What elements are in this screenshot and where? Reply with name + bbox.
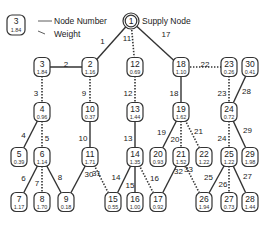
node-number: 25 xyxy=(224,149,234,159)
edge-label: 6 xyxy=(21,174,26,183)
node-weight: 1.22 xyxy=(224,159,235,165)
node-weight: 1.00 xyxy=(130,204,141,210)
node-number: 21 xyxy=(176,149,186,159)
node-number: 13 xyxy=(130,104,140,114)
edge-label: 31 xyxy=(92,169,101,178)
edge-label: 12 xyxy=(124,89,133,98)
node-number: 18 xyxy=(176,59,186,69)
edge-label: 20 xyxy=(171,135,180,144)
edge-label: 23 xyxy=(218,89,227,98)
node-number: 7 xyxy=(17,194,22,204)
node-number: 15 xyxy=(108,194,118,204)
node-number: 23 xyxy=(224,59,234,69)
node-number: 19 xyxy=(176,104,186,114)
legend-number-label: Node Number xyxy=(54,16,107,26)
node-22: 221.22 xyxy=(196,148,212,167)
node-weight: 0.39 xyxy=(14,159,25,165)
node-weight: 1.98 xyxy=(245,159,256,165)
node-number: 22 xyxy=(199,149,209,159)
node-weight: 0.26 xyxy=(224,69,235,75)
node-15: 150.55 xyxy=(105,193,121,212)
node-weight: 0.37 xyxy=(85,114,96,120)
edge-label: 7 xyxy=(35,179,40,188)
node-9: 90.18 xyxy=(58,193,74,212)
node-weight: 1.17 xyxy=(14,204,25,210)
node-number: 24 xyxy=(224,104,234,114)
node-number: 20 xyxy=(153,149,163,159)
node-number: 26 xyxy=(199,194,209,204)
edge-label: 10 xyxy=(79,134,88,143)
node-weight: 0.55 xyxy=(108,204,119,210)
legend-node-weight: 1.84 xyxy=(11,27,22,33)
node-weight: 0.69 xyxy=(130,69,141,75)
node-weight: 1.84 xyxy=(37,69,48,75)
edge-label: 21 xyxy=(194,127,203,136)
node-30: 300.41 xyxy=(242,58,258,77)
node-weight: 1.52 xyxy=(176,159,187,165)
node-weight: 1.14 xyxy=(37,159,48,165)
node-5: 50.39 xyxy=(11,148,27,167)
edge-label: 9 xyxy=(82,89,87,98)
node-13: 131.44 xyxy=(127,103,143,122)
node-11: 111.71 xyxy=(82,148,98,167)
node-number: 30 xyxy=(245,59,255,69)
edge-label: 13 xyxy=(124,134,133,143)
edge-label: 19 xyxy=(157,128,166,137)
node-20: 200.93 xyxy=(150,148,166,167)
node-3: 31.84 xyxy=(34,58,50,77)
node-weight: 1.22 xyxy=(199,159,210,165)
edge-label: 29 xyxy=(243,126,252,135)
node-2: 21.16 xyxy=(82,58,98,77)
edge-label: 28 xyxy=(242,87,251,96)
edge-label: 8 xyxy=(58,173,63,182)
node-number: 11 xyxy=(86,149,95,159)
node-24: 240.72 xyxy=(221,103,237,122)
node-number: 6 xyxy=(40,149,45,159)
node-number: 5 xyxy=(17,149,22,159)
node-21: 211.52 xyxy=(173,148,189,167)
node-number: 14 xyxy=(130,149,140,159)
node-weight: 0.96 xyxy=(37,114,48,120)
node-weight: 1.71 xyxy=(85,159,96,165)
node-23: 230.26 xyxy=(221,58,237,77)
node-number: 4 xyxy=(40,104,45,114)
node-19: 191.62 xyxy=(173,103,189,122)
node-27: 270.73 xyxy=(221,193,237,212)
node-6: 61.14 xyxy=(34,148,50,167)
node-weight: 0.72 xyxy=(224,114,235,120)
node-28: 281.44 xyxy=(242,193,258,212)
edge-label: 15 xyxy=(126,181,135,190)
edge-label: 4 xyxy=(21,131,26,140)
node-number: 10 xyxy=(85,104,95,114)
node-number: 17 xyxy=(153,194,163,204)
node-weight: 0.18 xyxy=(61,204,72,210)
node-weight: 1.94 xyxy=(199,204,210,210)
edge-label: 1 xyxy=(100,37,105,46)
supply-node: 1 Supply Node xyxy=(123,13,191,29)
legend-weight-pointer xyxy=(38,31,45,34)
node-weight: 1.35 xyxy=(130,159,141,165)
legend-weight-label: Weight xyxy=(54,29,81,39)
node-weight: 1.70 xyxy=(37,204,48,210)
node-weight: 0.73 xyxy=(224,204,235,210)
node-14: 141.35 xyxy=(127,148,143,167)
edge-label: 3 xyxy=(34,89,39,98)
edge-label: 32 xyxy=(174,167,183,176)
node-number: 29 xyxy=(245,149,255,159)
node-number: 28 xyxy=(245,194,255,204)
node-number: 3 xyxy=(40,59,45,69)
edge-label: 24 xyxy=(218,134,227,143)
node-10: 100.37 xyxy=(82,103,98,122)
node-number: 2 xyxy=(88,59,93,69)
node-18: 181.10 xyxy=(173,58,189,77)
node-7: 71.17 xyxy=(11,193,27,212)
edge-label: 2 xyxy=(64,60,69,69)
legend-node-number: 3 xyxy=(14,16,19,26)
edge-label: 25 xyxy=(204,173,213,182)
edge-label: 26 xyxy=(219,180,228,189)
node-number: 12 xyxy=(130,59,140,69)
legend: 3 1.84 Node Number Weight xyxy=(7,15,107,39)
node-number: 8 xyxy=(40,194,45,204)
node-17: 170.92 xyxy=(150,193,166,212)
node-16: 161.00 xyxy=(127,193,143,212)
